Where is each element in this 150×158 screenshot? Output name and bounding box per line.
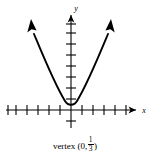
parabola-left-arrowhead	[27, 19, 36, 33]
parabola-figure: y x vertex (0,13)	[0, 0, 150, 158]
vertex-caption-suffix: )	[94, 141, 97, 151]
vertex-fraction: 13	[88, 136, 94, 153]
fraction-numerator: 1	[88, 136, 94, 144]
fraction-denominator: 3	[88, 145, 94, 153]
vertex-caption-prefix: vertex (0,	[53, 141, 87, 151]
x-axis-label: x	[141, 106, 146, 115]
coordinate-plane: y x	[0, 0, 150, 158]
vertex-caption: vertex (0,13)	[0, 136, 150, 153]
y-axis-label: y	[73, 4, 78, 13]
parabola-right-arrowhead	[105, 19, 114, 33]
